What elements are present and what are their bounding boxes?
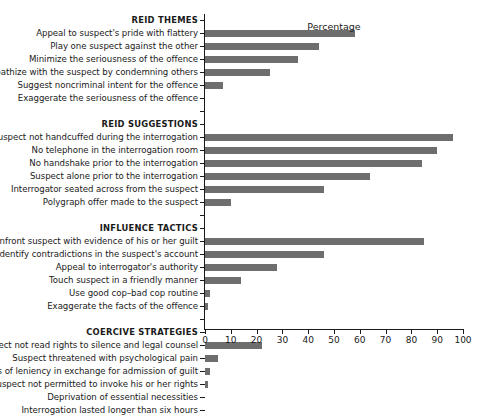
bar-label-polygraph-offer-made-to-the-suspect: Polygraph offer made to the suspect bbox=[43, 196, 198, 209]
bar-label-no-handshake-prior-to-the-interrogation: No handshake prior to the interrogation bbox=[29, 157, 198, 170]
group-header-label-reid-themes: REID THEMES bbox=[132, 14, 198, 27]
x-axis-tick-label: 40 bbox=[302, 335, 313, 345]
bar-exaggerate-the-facts-of-the-offence bbox=[205, 303, 208, 310]
bar-row: Exaggerate the facts of the offence bbox=[0, 300, 485, 313]
x-axis-tick-label: 30 bbox=[277, 335, 288, 345]
y-axis-tick bbox=[200, 111, 205, 112]
group-spacer-row bbox=[0, 313, 485, 326]
bar-no-telephone-in-the-interrogation-room bbox=[205, 147, 437, 154]
x-axis-tick-mark bbox=[308, 330, 309, 334]
bar-row: Interrogator seated across from the susp… bbox=[0, 183, 485, 196]
bar-row: Polygraph offer made to the suspect bbox=[0, 196, 485, 209]
bar-row: Exaggerate the seriousness of the offenc… bbox=[0, 92, 485, 105]
bar-label-deprivation-of-essential-necessities: Deprivation of essential necessities bbox=[47, 391, 198, 404]
bar-row: Appeal to interrogator's authority bbox=[0, 261, 485, 274]
bar-row: Suspect alone prior to the interrogation bbox=[0, 170, 485, 183]
bar-label-exaggerate-the-facts-of-the-offence: Exaggerate the facts of the offence bbox=[47, 300, 198, 313]
x-axis-tick-mark bbox=[463, 330, 464, 334]
x-axis-tick-mark bbox=[334, 330, 335, 334]
y-axis-tick bbox=[200, 228, 205, 229]
bar-minimize-the-seriousness-of-the-offence bbox=[205, 56, 298, 63]
bar-label-suspect-alone-prior-to-the-interrogation: Suspect alone prior to the interrogation bbox=[30, 170, 198, 183]
group-spacer-row bbox=[0, 105, 485, 118]
bar-label-identify-contradictions-in-the-suspect-s-account: Identify contradictions in the suspect's… bbox=[0, 248, 198, 261]
bar-row: Sympathize with the suspect by condemnin… bbox=[0, 66, 485, 79]
bar-row: No handshake prior to the interrogation bbox=[0, 157, 485, 170]
bar-play-one-suspect-against-the-other bbox=[205, 43, 319, 50]
bar-label-suspect-not-handcuffed-during-the-interrogation: Suspect not handcuffed during the interr… bbox=[0, 131, 198, 144]
bar-label-touch-suspect-in-a-friendly-manner: Touch suspect in a friendly manner bbox=[49, 274, 198, 287]
x-axis-tick-label: 0 bbox=[202, 335, 208, 345]
bar-row: No telephone in the interrogation room bbox=[0, 144, 485, 157]
bar-interrogator-seated-across-from-the-suspect bbox=[205, 186, 324, 193]
x-axis-tick-mark bbox=[231, 330, 232, 334]
bar-label-sympathize-with-the-suspect-by-condemning-others: Sympathize with the suspect by condemnin… bbox=[0, 66, 198, 79]
bar-label-interrogator-seated-across-from-the-suspect: Interrogator seated across from the susp… bbox=[11, 183, 198, 196]
bar-identify-contradictions-in-the-suspect-s-account bbox=[205, 251, 324, 258]
x-axis-tick-mark bbox=[437, 330, 438, 334]
bar-sympathize-with-the-suspect-by-condemning-others bbox=[205, 69, 270, 76]
bar-label-suggest-noncriminal-intent-for-the-offence: Suggest noncriminal intent for the offen… bbox=[18, 79, 198, 92]
bar-label-exaggerate-the-seriousness-of-the-offence: Exaggerate the seriousness of the offenc… bbox=[18, 92, 198, 105]
bar-suggest-noncriminal-intent-for-the-offence bbox=[205, 82, 223, 89]
group-header-label-reid-suggestions: REID SUGGESTIONS bbox=[102, 118, 198, 131]
bar-row: Suspect not permitted to invoke his or h… bbox=[0, 378, 485, 391]
bar-row: Suspect not handcuffed during the interr… bbox=[0, 131, 485, 144]
bar-row: Use good cop–bad cop routine bbox=[0, 287, 485, 300]
bar-suspect-not-permitted-to-invoke-his-or-her-right bbox=[205, 381, 208, 388]
bar-suspect-not-handcuffed-during-the-interrogation bbox=[205, 134, 453, 141]
bar-label-interrogation-lasted-longer-than-six-hours: Interrogation lasted longer than six hou… bbox=[21, 404, 198, 417]
x-axis-tick-mark bbox=[360, 330, 361, 334]
x-axis-ticks: 0102030405060708090100 bbox=[0, 330, 485, 375]
x-axis-tick-mark bbox=[205, 330, 206, 334]
bar-label-confront-suspect-with-evidence-of-his-or-her-gui: Confront suspect with evidence of his or… bbox=[0, 235, 198, 248]
x-axis-tick-label: 80 bbox=[406, 335, 417, 345]
y-axis-tick bbox=[200, 98, 205, 99]
bar-label-appeal-to-suspect-s-pride-with-flattery: Appeal to suspect's pride with flattery bbox=[36, 27, 198, 40]
group-spacer-row bbox=[0, 209, 485, 222]
x-axis-tick-label: 100 bbox=[454, 335, 471, 345]
bar-row: Interrogation lasted longer than six hou… bbox=[0, 404, 485, 417]
bar-row: Minimize the seriousness of the offence bbox=[0, 53, 485, 66]
bar-label-appeal-to-interrogator-s-authority: Appeal to interrogator's authority bbox=[56, 261, 198, 274]
bar-row: Suggest noncriminal intent for the offen… bbox=[0, 79, 485, 92]
x-axis-tick-label: 70 bbox=[380, 335, 391, 345]
x-axis-tick-label: 90 bbox=[431, 335, 442, 345]
y-axis-tick bbox=[200, 124, 205, 125]
bar-suspect-alone-prior-to-the-interrogation bbox=[205, 173, 370, 180]
group-header-label-influence-tactics: INFLUENCE TACTICS bbox=[100, 222, 198, 235]
bar-row: Touch suspect in a friendly manner bbox=[0, 274, 485, 287]
x-axis-tick-mark bbox=[411, 330, 412, 334]
bar-touch-suspect-in-a-friendly-manner bbox=[205, 277, 241, 284]
bar-label-minimize-the-seriousness-of-the-offence: Minimize the seriousness of the offence bbox=[29, 53, 198, 66]
group-header-row: INFLUENCE TACTICS bbox=[0, 222, 485, 235]
x-axis-tick-label: 50 bbox=[328, 335, 339, 345]
bar-confront-suspect-with-evidence-of-his-or-her-gui bbox=[205, 238, 424, 245]
x-axis-title: Percentage bbox=[205, 21, 463, 32]
x-axis-tick-mark bbox=[282, 330, 283, 334]
y-axis-tick bbox=[200, 215, 205, 216]
bar-label-no-telephone-in-the-interrogation-room: No telephone in the interrogation room bbox=[32, 144, 199, 157]
x-axis-tick-label: 10 bbox=[225, 335, 236, 345]
chart-rows: REID THEMESAppeal to suspect's pride wit… bbox=[0, 14, 485, 329]
bar-label-suspect-not-permitted-to-invoke-his-or-her-right: Suspect not permitted to invoke his or h… bbox=[0, 378, 198, 391]
bar-row: Play one suspect against the other bbox=[0, 40, 485, 53]
bar-no-handshake-prior-to-the-interrogation bbox=[205, 160, 422, 167]
bar-row: Confront suspect with evidence of his or… bbox=[0, 235, 485, 248]
y-axis-tick bbox=[200, 397, 205, 398]
x-axis-tick-mark bbox=[257, 330, 258, 334]
x-axis-tick-mark bbox=[386, 330, 387, 334]
x-axis-tick-label: 20 bbox=[251, 335, 262, 345]
bar-label-play-one-suspect-against-the-other: Play one suspect against the other bbox=[50, 40, 198, 53]
bar-row: Deprivation of essential necessities bbox=[0, 391, 485, 404]
bar-polygraph-offer-made-to-the-suspect bbox=[205, 199, 231, 206]
group-header-row: REID SUGGESTIONS bbox=[0, 118, 485, 131]
bar-row: Identify contradictions in the suspect's… bbox=[0, 248, 485, 261]
bar-use-good-cop-bad-cop-routine bbox=[205, 290, 210, 297]
bar-appeal-to-interrogator-s-authority bbox=[205, 264, 277, 271]
y-axis-tick bbox=[200, 410, 205, 411]
bar-label-use-good-cop-bad-cop-routine: Use good cop–bad cop routine bbox=[69, 287, 198, 300]
x-axis-tick-label: 60 bbox=[354, 335, 365, 345]
y-axis-tick bbox=[200, 319, 205, 320]
